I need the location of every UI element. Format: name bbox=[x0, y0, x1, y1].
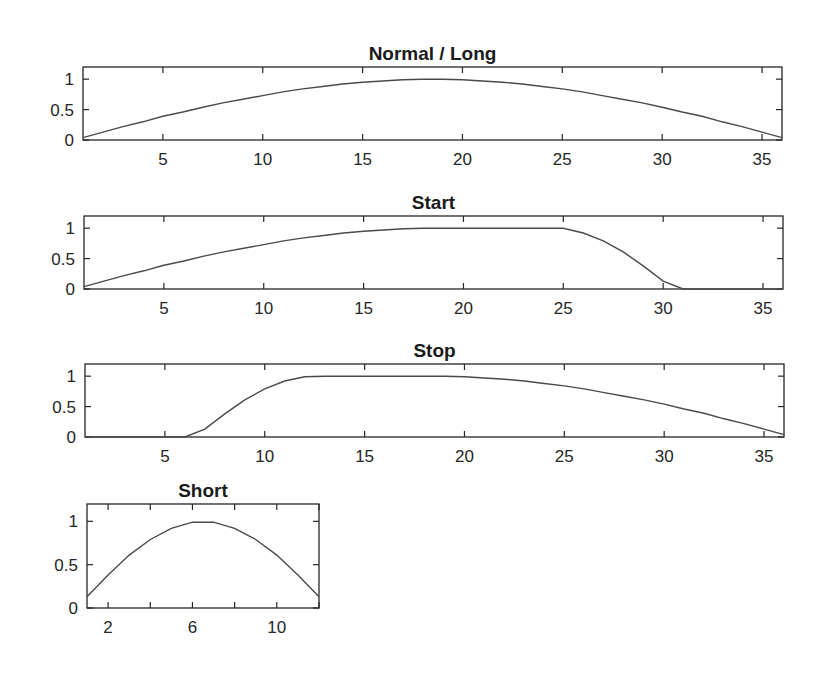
y-tick-label: 1 bbox=[69, 512, 78, 531]
x-tick-label: 10 bbox=[267, 618, 286, 637]
x-tick-label: 30 bbox=[654, 299, 673, 318]
y-tick-label: 1 bbox=[67, 367, 76, 386]
y-tick-label: 0.5 bbox=[50, 101, 74, 120]
x-tick-label: 25 bbox=[553, 150, 572, 169]
subplot-title: Short bbox=[178, 480, 228, 501]
x-tick-label: 10 bbox=[254, 299, 273, 318]
y-tick-label: 1 bbox=[66, 219, 75, 238]
data-line bbox=[84, 228, 783, 289]
y-tick-label: 0 bbox=[66, 280, 75, 299]
x-tick-label: 10 bbox=[255, 447, 274, 466]
y-tick-label: 0.5 bbox=[51, 250, 75, 269]
subplot-stop: Stop510152025303500.51 bbox=[52, 340, 784, 466]
x-tick-label: 30 bbox=[653, 150, 672, 169]
axes-frame bbox=[84, 216, 783, 289]
subplot-title: Normal / Long bbox=[369, 43, 497, 64]
x-tick-label: 5 bbox=[158, 150, 167, 169]
x-tick-label: 35 bbox=[753, 150, 772, 169]
x-tick-label: 10 bbox=[253, 150, 272, 169]
x-tick-label: 15 bbox=[353, 150, 372, 169]
x-tick-label: 25 bbox=[554, 299, 573, 318]
subplot-normal-long: Normal / Long510152025303500.51 bbox=[50, 43, 782, 169]
data-line bbox=[85, 376, 784, 437]
subplot-title: Stop bbox=[413, 340, 455, 361]
x-tick-label: 15 bbox=[354, 299, 373, 318]
data-line bbox=[87, 522, 319, 597]
y-tick-label: 1 bbox=[65, 70, 74, 89]
x-tick-label: 25 bbox=[555, 447, 574, 466]
figure: Normal / Long510152025303500.51Start5101… bbox=[0, 0, 829, 677]
axes-frame bbox=[83, 67, 782, 140]
x-tick-label: 20 bbox=[454, 299, 473, 318]
x-tick-label: 6 bbox=[188, 618, 197, 637]
subplot-short: Short261000.51 bbox=[54, 480, 319, 637]
y-tick-label: 0 bbox=[69, 599, 78, 618]
y-tick-label: 0.5 bbox=[54, 556, 78, 575]
x-tick-label: 35 bbox=[755, 447, 774, 466]
axes-frame bbox=[85, 364, 784, 437]
axes-frame bbox=[87, 504, 319, 608]
x-tick-label: 30 bbox=[655, 447, 674, 466]
y-tick-label: 0.5 bbox=[52, 398, 76, 417]
data-line bbox=[83, 79, 782, 137]
x-tick-label: 20 bbox=[453, 150, 472, 169]
x-tick-label: 5 bbox=[159, 299, 168, 318]
x-tick-label: 20 bbox=[455, 447, 474, 466]
x-tick-label: 2 bbox=[103, 618, 112, 637]
x-tick-label: 35 bbox=[754, 299, 773, 318]
x-tick-label: 5 bbox=[160, 447, 169, 466]
y-tick-label: 0 bbox=[67, 428, 76, 447]
x-tick-label: 15 bbox=[355, 447, 374, 466]
subplot-title: Start bbox=[412, 192, 456, 213]
subplot-start: Start510152025303500.51 bbox=[51, 192, 783, 318]
y-tick-label: 0 bbox=[65, 131, 74, 150]
